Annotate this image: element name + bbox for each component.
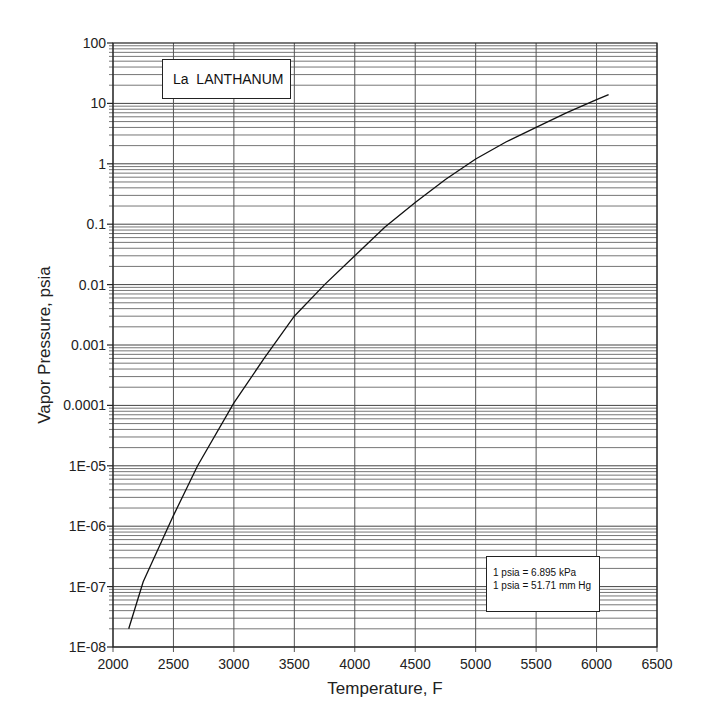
unit-conversion-note: 1 psia = 6.895 kPa 1 psia = 51.71 mm Hg [486,556,600,612]
y-tick-label: 0.0001 [63,397,106,413]
y-tick-label: 1E-07 [69,579,107,595]
x-tick-label: 6500 [641,656,672,672]
x-tick-label: 3000 [218,656,249,672]
conversion-kpa: 1 psia = 6.895 kPa [493,566,599,579]
y-tick-label: 1E-06 [69,518,107,534]
y-tick-label: 1 [98,156,106,172]
x-tick-label: 2000 [97,656,128,672]
y-tick-label: 100 [83,35,107,51]
x-tick-label: 5500 [521,656,552,672]
y-tick-label: 0.001 [71,337,106,353]
y-tick-label: 1E-08 [69,639,107,655]
x-tick-label: 3500 [279,656,310,672]
y-tick-label: 0.1 [87,216,107,232]
element-label: La LANTHANUM [173,71,283,87]
x-axis-tick-labels: 2000250030003500400045005000550060006500 [97,656,672,672]
x-tick-label: 5000 [460,656,491,672]
vapor-pressure-chart: 2000250030003500400045005000550060006500… [0,0,707,725]
x-tick-label: 4000 [339,656,370,672]
x-tick-label: 2500 [158,656,189,672]
y-axis-title: Vapor Pressure, psia [35,266,54,424]
conversion-mmhg: 1 psia = 51.71 mm Hg [493,579,599,592]
x-tick-label: 6000 [581,656,612,672]
y-axis-tick-labels: 1E-081E-071E-061E-050.00010.0010.010.111… [63,35,106,655]
x-axis-title: Temperature, F [327,679,442,698]
vapor-pressure-curve [129,95,609,629]
y-tick-label: 10 [90,95,106,111]
y-tick-label: 1E-05 [69,458,107,474]
y-tick-label: 0.01 [79,277,106,293]
x-tick-label: 4500 [400,656,431,672]
element-label-box: La LANTHANUM [162,59,291,99]
